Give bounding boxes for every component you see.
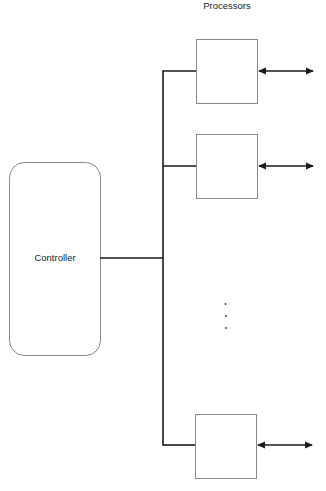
processor-node-3	[163, 415, 312, 479]
controller-node: Controller	[10, 163, 101, 356]
processor-box-2	[197, 135, 258, 199]
controller-label: Controller	[34, 252, 75, 263]
processor-node-2	[163, 135, 313, 199]
processors-title: Processors	[203, 0, 251, 11]
processor-node-1	[163, 40, 313, 104]
processor-box-3	[196, 415, 257, 479]
ellipsis-dots	[225, 303, 227, 329]
diagram-canvas: Processors Controller	[0, 0, 326, 491]
processor-box-1	[197, 40, 258, 104]
